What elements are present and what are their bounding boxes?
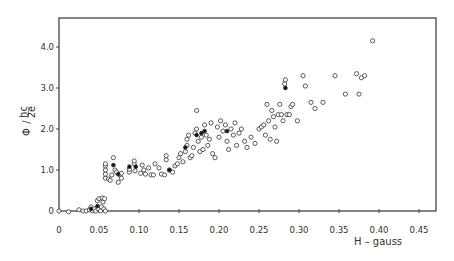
x-axis-ticks: 00.050.100.150.200.250.300.350.400.45 (56, 209, 428, 235)
x-tick-label: 0.20 (210, 225, 229, 235)
open-data-point (235, 143, 239, 147)
open-data-point (355, 72, 359, 76)
open-data-point (263, 133, 267, 137)
y-tick-label: 1.0 (40, 165, 54, 175)
open-data-point (313, 106, 317, 110)
filled-data-point (195, 133, 199, 137)
open-data-point (103, 168, 107, 172)
open-data-point (187, 133, 191, 137)
open-data-point (57, 209, 61, 213)
filled-data-point (89, 207, 93, 211)
open-data-point (206, 143, 210, 147)
open-data-point (157, 166, 161, 170)
scatter-plot: 00.050.100.150.200.250.300.350.400.45 01… (0, 0, 454, 261)
filled-data-point (116, 172, 120, 176)
open-data-point (196, 139, 200, 143)
open-data-point (163, 173, 167, 177)
open-data-point (233, 121, 237, 125)
open-data-point (185, 137, 189, 141)
open-data-point (239, 127, 243, 131)
open-data-point (343, 92, 347, 96)
x-tick-label: 0.45 (410, 225, 429, 235)
x-tick-label: 0.05 (90, 225, 109, 235)
open-data-point (77, 208, 81, 212)
open-data-point (321, 100, 325, 104)
x-tick-label: 0.25 (250, 225, 269, 235)
filled-data-point (96, 204, 100, 208)
open-data-point (195, 127, 199, 131)
filled-data-point (203, 129, 207, 133)
open-data-point (333, 74, 337, 78)
open-data-point (219, 119, 223, 123)
open-data-point (221, 129, 225, 133)
filled-data-point (127, 165, 131, 169)
open-data-point (183, 150, 187, 154)
open-data-point (119, 176, 123, 180)
open-data-point (265, 102, 269, 106)
open-data-point (207, 137, 211, 141)
y-axis-title-denominator: 2e (26, 106, 37, 119)
open-data-point (211, 152, 215, 156)
open-data-point (249, 135, 253, 139)
open-data-point (103, 209, 107, 213)
open-data-point (199, 135, 203, 139)
open-data-point (204, 133, 208, 137)
data-points (57, 39, 375, 214)
y-tick-label: 3.0 (40, 83, 54, 93)
open-data-point (190, 154, 194, 158)
y-axis-ticks: 01.02.03.04.0 (40, 42, 59, 216)
filled-data-point (225, 129, 229, 133)
open-data-point (357, 92, 361, 96)
open-data-point (281, 119, 285, 123)
filled-data-point (184, 146, 188, 150)
open-data-point (116, 180, 120, 184)
x-axis-title: H – gauss (354, 236, 402, 247)
y-tick-label: 0 (49, 206, 54, 216)
open-data-point (270, 108, 274, 112)
open-data-point (177, 156, 181, 160)
open-data-point (110, 173, 114, 177)
open-data-point (195, 108, 199, 112)
filled-data-point (134, 165, 138, 169)
open-data-point (231, 133, 235, 137)
open-data-point (271, 115, 275, 119)
open-data-point (267, 119, 271, 123)
open-data-point (175, 162, 179, 166)
open-data-point (283, 78, 287, 82)
open-data-point (268, 137, 272, 141)
open-data-point (371, 39, 375, 43)
x-tick-label: 0.35 (330, 225, 349, 235)
open-data-point (245, 145, 249, 149)
open-data-point (227, 147, 231, 151)
plot-frame (59, 18, 436, 211)
open-data-point (151, 173, 155, 177)
open-data-point (153, 162, 157, 166)
open-data-point (275, 139, 279, 143)
y-axis-title-symbol: Φ (21, 128, 32, 136)
open-data-point (243, 139, 247, 143)
open-data-point (209, 121, 213, 125)
y-axis-title: Φ / hc 2e (18, 106, 37, 136)
open-data-point (140, 163, 144, 167)
open-data-point (237, 131, 241, 135)
open-data-point (133, 169, 137, 173)
open-data-point (287, 113, 291, 117)
open-data-point (179, 152, 183, 156)
open-data-point (217, 135, 221, 139)
open-data-point (278, 102, 282, 106)
open-data-point (291, 102, 295, 106)
open-data-point (225, 139, 229, 143)
open-data-point (203, 123, 207, 127)
open-data-point (103, 172, 107, 176)
open-data-point (191, 145, 195, 149)
open-data-point (103, 162, 107, 166)
open-data-point (301, 74, 305, 78)
x-tick-label: 0.15 (170, 225, 189, 235)
open-data-point (213, 156, 217, 160)
x-tick-label: 0 (56, 225, 61, 235)
open-data-point (283, 82, 287, 86)
filled-data-point (112, 163, 116, 167)
filled-data-point (284, 86, 288, 90)
x-tick-label: 0.30 (290, 225, 309, 235)
open-data-point (142, 168, 146, 172)
